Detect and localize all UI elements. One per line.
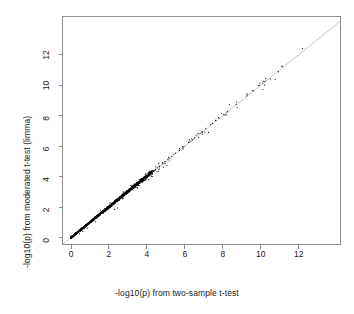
x-tick-label: 2 — [107, 249, 112, 259]
scatter-plot-figure: -log10(p) from two-sample t-test -log10(… — [0, 0, 354, 314]
y-axis-title: -log10(p) from moderated t-test (limma) — [22, 116, 32, 268]
y-tick-label: 12 — [41, 50, 51, 59]
plot-canvas — [0, 0, 354, 314]
x-tick-label: 0 — [69, 249, 74, 259]
y-tick-label: 4 — [41, 177, 51, 182]
plot-region — [59, 17, 341, 249]
y-tick-label: 10 — [41, 81, 51, 90]
y-tick-label: 6 — [41, 146, 51, 151]
y-tick-label: 0 — [41, 238, 51, 243]
x-tick-label: 8 — [220, 249, 225, 259]
y-tick-label: 2 — [41, 207, 51, 212]
x-tick-label: 12 — [294, 249, 303, 259]
x-tick-label: 4 — [145, 249, 150, 259]
x-tick-label: 6 — [183, 249, 188, 259]
x-tick-label: 10 — [256, 249, 265, 259]
y-tick-label: 8 — [41, 116, 51, 121]
x-axis-title: -log10(p) from two-sample t-test — [0, 288, 354, 298]
